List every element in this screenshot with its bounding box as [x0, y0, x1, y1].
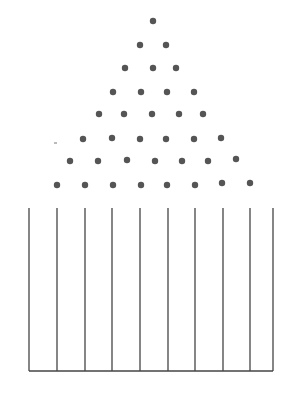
peg [176, 111, 182, 117]
peg [138, 89, 144, 95]
peg-row [96, 111, 206, 117]
peg [109, 135, 115, 141]
peg [150, 18, 156, 24]
peg [54, 182, 60, 188]
peg-row [150, 18, 156, 24]
peg [121, 111, 127, 117]
peg-row [54, 180, 253, 188]
peg [191, 136, 197, 142]
peg [80, 136, 86, 142]
peg [164, 182, 170, 188]
peg-row [67, 156, 239, 164]
peg [138, 182, 144, 188]
peg [205, 158, 211, 164]
peg [149, 111, 155, 117]
peg-grid [54, 18, 253, 188]
peg [152, 158, 158, 164]
peg [163, 42, 169, 48]
peg [163, 136, 169, 142]
peg [179, 158, 185, 164]
peg-row [137, 42, 169, 48]
peg [95, 158, 101, 164]
peg [110, 182, 116, 188]
peg [173, 65, 179, 71]
peg [110, 89, 116, 95]
peg [191, 89, 197, 95]
peg [122, 65, 128, 71]
peg [200, 111, 206, 117]
peg-row [110, 89, 197, 95]
peg [67, 158, 73, 164]
peg [96, 111, 102, 117]
peg [219, 180, 225, 186]
peg [164, 89, 170, 95]
peg-row [122, 65, 179, 71]
peg [218, 135, 224, 141]
peg [137, 42, 143, 48]
peg [192, 182, 198, 188]
peg [247, 180, 253, 186]
peg [137, 136, 143, 142]
peg [82, 182, 88, 188]
peg [124, 157, 130, 163]
galton-board-diagram [0, 0, 295, 398]
peg-row [80, 135, 224, 142]
peg [150, 65, 156, 71]
peg [233, 156, 239, 162]
bin-dividers [29, 208, 273, 371]
